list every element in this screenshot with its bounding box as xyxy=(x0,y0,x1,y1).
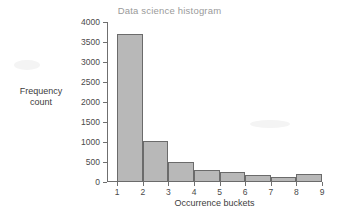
y-tick xyxy=(103,62,107,63)
y-tick xyxy=(103,102,107,103)
y-axis-title: Frequency count xyxy=(8,86,74,108)
y-tick-label: 500 xyxy=(86,157,100,167)
y-tick-label: 4000 xyxy=(81,17,100,27)
y-tick-label: 3000 xyxy=(81,57,100,67)
x-tick xyxy=(117,182,118,186)
x-tick xyxy=(168,182,169,186)
x-tick xyxy=(245,182,246,186)
y-axis-title-line-1: Frequency xyxy=(8,86,74,97)
x-tick-label: 2 xyxy=(140,187,145,197)
histogram-figure: Data science histogram Frequency count 0… xyxy=(0,0,339,222)
y-tick xyxy=(103,122,107,123)
x-tick-label: 8 xyxy=(294,187,299,197)
histogram-bar xyxy=(245,175,271,182)
x-tick xyxy=(296,182,297,186)
histogram-bar xyxy=(168,162,194,182)
y-axis-title-line-2: count xyxy=(8,97,74,108)
histogram-bar xyxy=(194,170,220,182)
y-tick-label: 2500 xyxy=(81,77,100,87)
x-tick-label: 9 xyxy=(320,187,325,197)
histogram-bar xyxy=(271,177,297,182)
y-tick xyxy=(103,182,107,183)
plot-area: 05001000150020002500300035004000 1234567… xyxy=(107,22,322,182)
y-tick-label: 1000 xyxy=(81,137,100,147)
histogram-bar xyxy=(296,174,322,182)
y-tick xyxy=(103,142,107,143)
y-tick xyxy=(103,22,107,23)
histogram-bar xyxy=(143,141,169,182)
y-tick-label: 2000 xyxy=(81,97,100,107)
x-tick xyxy=(271,182,272,186)
y-tick xyxy=(103,162,107,163)
x-tick xyxy=(220,182,221,186)
x-tick-label: 4 xyxy=(192,187,197,197)
x-tick-label: 1 xyxy=(115,187,120,197)
y-tick-label: 3500 xyxy=(81,37,100,47)
scan-artifact xyxy=(14,60,40,70)
y-tick xyxy=(103,82,107,83)
x-tick-label: 6 xyxy=(243,187,248,197)
x-tick xyxy=(322,182,323,186)
histogram-bar xyxy=(220,172,246,182)
x-tick-label: 3 xyxy=(166,187,171,197)
y-tick-label: 1500 xyxy=(81,117,100,127)
y-tick-label: 0 xyxy=(95,177,100,187)
y-axis-line xyxy=(107,22,108,182)
y-tick xyxy=(103,42,107,43)
x-tick-label: 5 xyxy=(217,187,222,197)
x-tick xyxy=(143,182,144,186)
x-axis-title: Occurrence buckets xyxy=(107,198,322,208)
chart-title: Data science histogram xyxy=(0,5,339,16)
x-tick xyxy=(194,182,195,186)
histogram-bar xyxy=(117,34,143,182)
x-tick-label: 7 xyxy=(268,187,273,197)
